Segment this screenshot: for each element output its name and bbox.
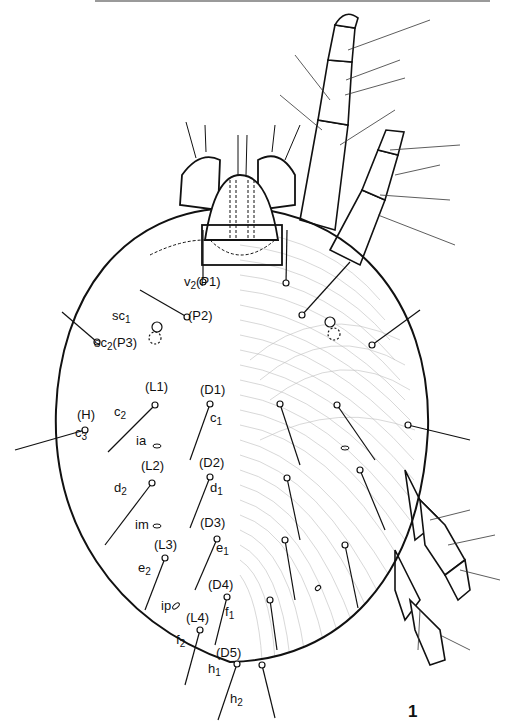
seta-label: sc2(P3)	[94, 336, 137, 352]
seta-label: v2(P1)	[184, 275, 221, 291]
seta-label: e1	[216, 541, 229, 557]
pore-label: ia	[136, 434, 146, 447]
leg-setae	[280, 20, 500, 650]
figure-number: 1	[408, 702, 417, 722]
seta-label: (D1)	[200, 383, 225, 396]
seta-label: f2	[176, 633, 185, 649]
pore-label: im	[135, 518, 149, 531]
seta-label: (D4)	[208, 578, 233, 591]
seta-label: (L1)	[145, 380, 168, 393]
eye-left	[149, 322, 162, 344]
seta-label: (L3)	[154, 538, 177, 551]
seta-label: d1	[210, 481, 223, 497]
mite-illustration	[0, 0, 505, 728]
seta-label: (D5)	[216, 646, 241, 659]
seta-label: c1	[210, 411, 222, 427]
seta-label: h1	[208, 662, 221, 678]
seta-label: (D3)	[200, 516, 225, 529]
seta-label: (H)	[77, 408, 95, 421]
seta-label: e2	[138, 561, 151, 577]
seta-label: d2	[114, 481, 127, 497]
seta-label: (L2)	[141, 459, 164, 472]
body-outline	[56, 208, 428, 662]
pore-label: ip	[161, 599, 171, 612]
seta-label: (D2)	[199, 456, 224, 469]
lyrifissures	[153, 444, 349, 610]
leg-III-right	[405, 470, 470, 600]
seta-label: (L4)	[186, 611, 209, 624]
dorsal-setae	[15, 230, 470, 720]
seta-label: c2	[114, 405, 126, 421]
striation-pattern	[240, 230, 415, 660]
seta-label: c3	[75, 426, 87, 442]
seta-label: f1	[225, 605, 234, 621]
seta-label: h2	[230, 692, 243, 708]
leg-IV-right	[395, 550, 445, 665]
seta-label: (P2)	[188, 309, 213, 322]
leg-I-right	[300, 14, 358, 230]
seta-label: sc1	[112, 309, 131, 325]
